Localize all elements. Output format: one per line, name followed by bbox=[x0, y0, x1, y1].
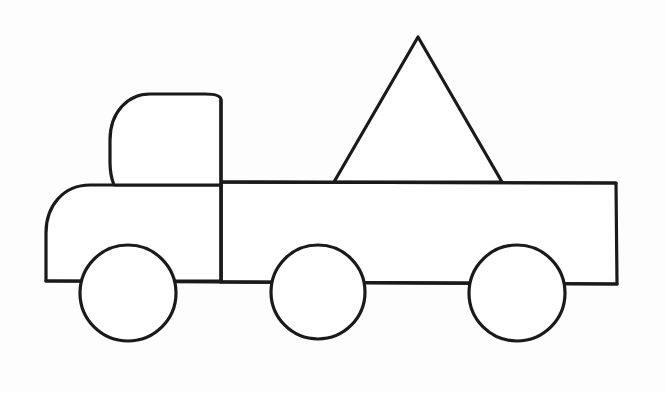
middle-wheel bbox=[271, 245, 365, 339]
truck-cab bbox=[110, 94, 221, 185]
bed-top-edge bbox=[221, 182, 616, 183]
drawing-canvas: Truck Outline Coloring Page bbox=[0, 0, 665, 393]
front-wheel bbox=[80, 245, 176, 341]
rear-wheel bbox=[469, 245, 565, 341]
truck-line-drawing bbox=[0, 0, 665, 393]
